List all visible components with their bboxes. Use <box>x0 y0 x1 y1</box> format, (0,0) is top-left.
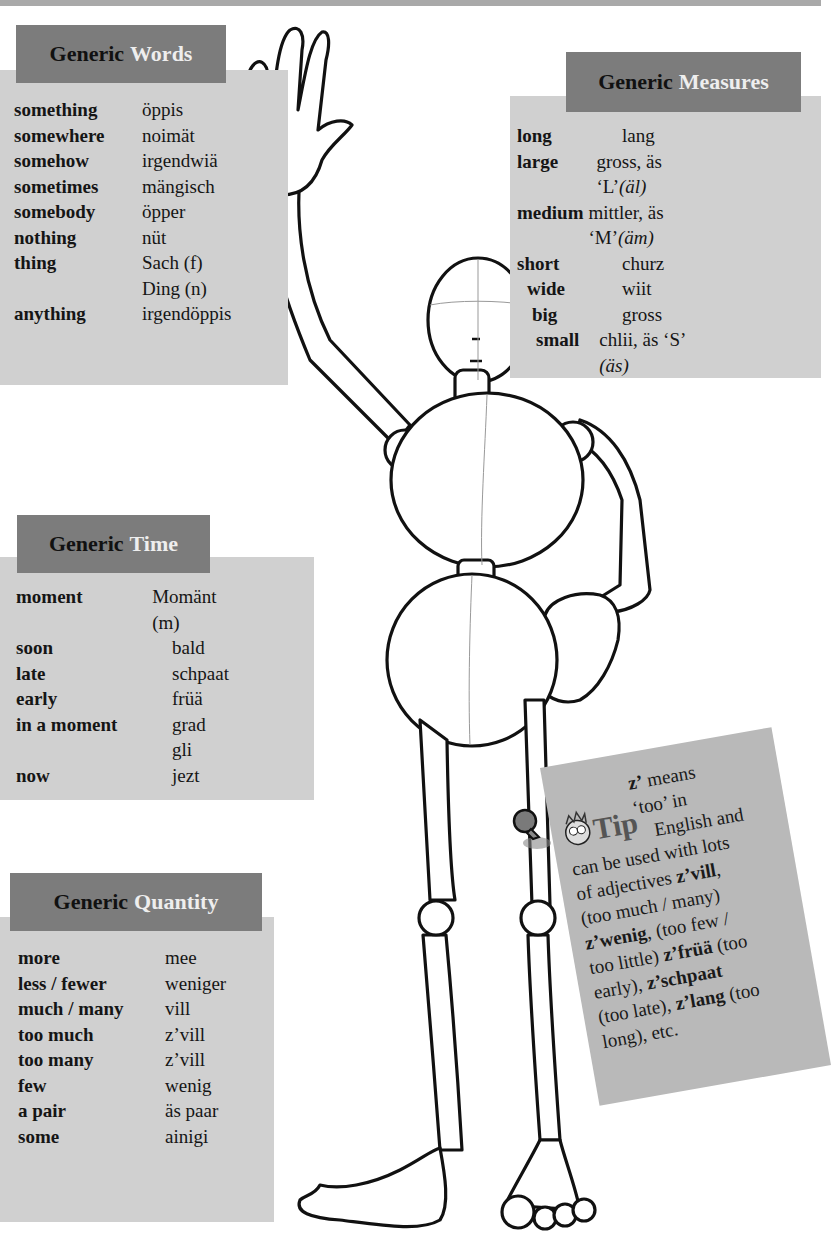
vocab-row: soonbald <box>16 635 236 661</box>
box-header: Generic Time <box>17 515 210 573</box>
vocab-row: biggross <box>517 302 687 328</box>
vocab-row: widewiit <box>517 276 687 302</box>
box-header: Generic Words <box>16 25 226 83</box>
vocab-row: longlang <box>517 123 687 149</box>
vocab-list: somethingöppis somewherenoimät somehowir… <box>14 97 231 327</box>
title-word-2: Quantity <box>134 889 218 915</box>
vocab-row: nowjezt <box>16 763 236 789</box>
title-word-1: Generic <box>49 531 124 557</box>
vocab-list: longlang largegross, äs ‘L’(äl) mediummi… <box>517 123 687 378</box>
box-header: Generic Measures <box>566 52 801 112</box>
title-word-1: Generic <box>54 889 129 915</box>
vocab-row: much / manyvill <box>18 996 226 1022</box>
title-word-1: Generic <box>598 69 673 95</box>
vocab-row: too muchz’vill <box>18 1022 226 1048</box>
vocab-row: shortchurz <box>517 251 687 277</box>
title-word-2: Measures <box>679 69 769 95</box>
vocab-row: lateschpaat <box>16 661 236 687</box>
box-header: Generic Quantity <box>10 873 262 931</box>
vocab-row: thingSach (f) <box>14 250 231 276</box>
vocab-row: Ding (n) <box>14 276 231 302</box>
vocab-row: largegross, äs ‘L’(äl) <box>517 149 687 200</box>
vocab-row: someainigi <box>18 1124 226 1150</box>
vocab-list: moremee less / fewerweniger much / manyv… <box>18 945 226 1149</box>
title-word-1: Generic <box>50 41 125 67</box>
title-word-2: Words <box>130 41 192 67</box>
vocab-row: somethingöppis <box>14 97 231 123</box>
pushpin-icon <box>511 807 561 857</box>
vocab-row: somewherenoimät <box>14 123 231 149</box>
vocab-row: mediummittler, äs ‘M’(äm) <box>517 200 687 251</box>
vocab-row: sometimesmängisch <box>14 174 231 200</box>
vocab-row: somebodyöpper <box>14 199 231 225</box>
vocab-list: momentMomänt (m) soonbald lateschpaat ea… <box>16 584 236 788</box>
vocab-row: a pairäs paar <box>18 1098 226 1124</box>
vocab-row: fewwenig <box>18 1073 226 1099</box>
title-word-2: Time <box>130 531 178 557</box>
vocab-row: earlyfrüä <box>16 686 236 712</box>
vocab-row: smallchlii, äs ‘S’ (äs) <box>517 327 687 378</box>
vocab-row: gli <box>16 737 236 763</box>
vocab-row: nothingnüt <box>14 225 231 251</box>
vocab-row: too manyz’vill <box>18 1047 226 1073</box>
tip-text: z’ means ‘too’ in English and can be use… <box>557 747 812 1054</box>
vocab-row: momentMomänt (m) <box>16 584 236 635</box>
vocab-row: somehowirgendwiä <box>14 148 231 174</box>
vocab-row: anythingirgendöppis <box>14 301 231 327</box>
vocab-row: in a momentgrad <box>16 712 236 738</box>
vocab-row: less / fewerweniger <box>18 971 226 997</box>
vocab-row: moremee <box>18 945 226 971</box>
